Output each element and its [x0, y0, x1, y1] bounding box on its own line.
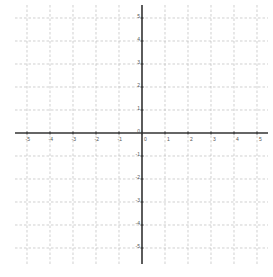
x-tick-label: 5 — [259, 136, 262, 142]
y-tick-label: 0 — [137, 128, 140, 134]
y-tick-label: 4 — [137, 36, 140, 42]
y-tick-label: 5 — [137, 13, 140, 19]
y-tick-label: 3 — [137, 59, 140, 65]
x-tick-label: -4 — [49, 136, 54, 142]
x-tick-label: 2 — [190, 136, 193, 142]
x-tick-labels: -5-4-3-2-1012345 — [26, 136, 263, 142]
x-tick-label: 1 — [167, 136, 170, 142]
x-tick-label: 0 — [144, 136, 147, 142]
y-tick-label: 1 — [137, 105, 140, 111]
x-tick-label: -5 — [26, 136, 31, 142]
coordinate-plane: -5-4-3-2-1012345 -5-4-3-2-1123450 — [0, 0, 273, 277]
y-tick-label: 2 — [137, 82, 140, 88]
y-tick-label: -4 — [136, 220, 141, 226]
y-tick-label: -1 — [136, 151, 141, 157]
x-tick-label: -1 — [118, 136, 123, 142]
x-tick-label: 3 — [213, 136, 216, 142]
y-tick-label: -2 — [136, 174, 141, 180]
y-tick-label: -5 — [136, 243, 141, 249]
x-tick-label: 4 — [236, 136, 239, 142]
x-tick-label: -3 — [72, 136, 77, 142]
y-tick-labels: -5-4-3-2-1123450 — [136, 13, 141, 249]
y-tick-label: -3 — [136, 197, 141, 203]
x-tick-label: -2 — [95, 136, 100, 142]
